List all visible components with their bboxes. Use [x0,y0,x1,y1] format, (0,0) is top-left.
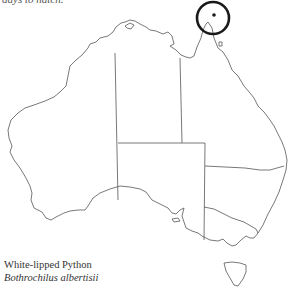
tasmania [224,262,246,286]
qld-nsw-border [205,166,284,170]
wa-border [115,53,118,200]
australia-map [0,0,291,294]
sa-nsw-qld-border [204,143,205,240]
species-caption: White-lipped Python Bothrochilus alberti… [4,258,98,284]
nsw-vic-border [204,207,258,233]
range-marker-circle [197,2,229,34]
scientific-name: Bothrochilus albertisii [4,271,98,284]
mainland-coastline [8,20,287,246]
groote-eylandt [219,42,222,46]
nt-qld-border [180,58,182,143]
occurrence-dot [212,13,216,17]
kangaroo-island [172,218,180,222]
common-name: White-lipped Python [4,258,98,271]
